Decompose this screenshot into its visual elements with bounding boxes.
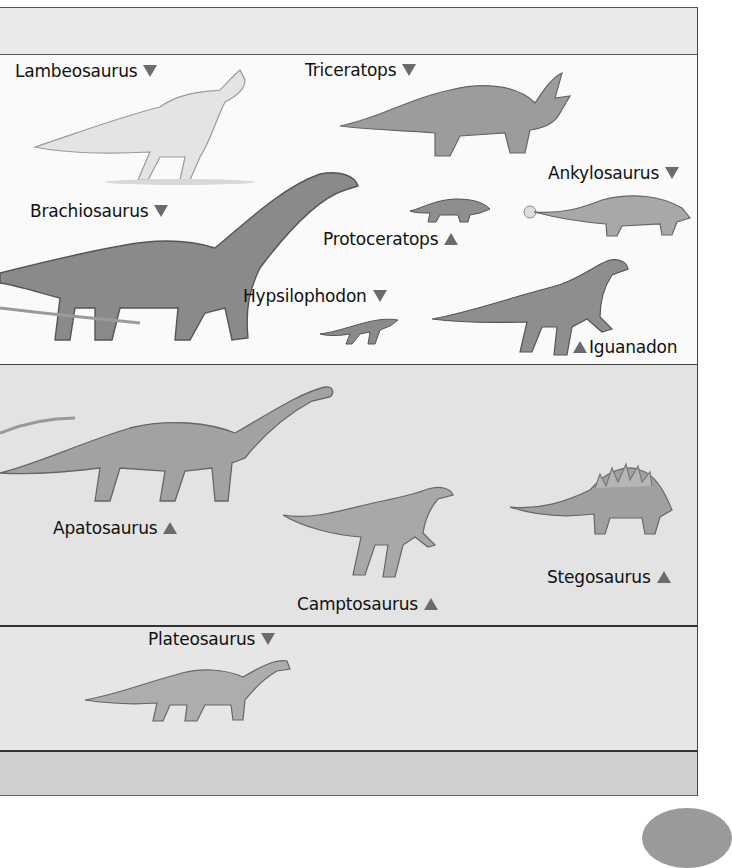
stegosaurus-illustration [510, 462, 675, 537]
label-brachiosaurus: Brachiosaurus [30, 201, 168, 221]
label-text: Lambeosaurus [15, 61, 137, 81]
triangle-down-icon [665, 167, 679, 179]
triangle-down-icon [154, 205, 168, 217]
timeline-band-4 [0, 752, 698, 796]
hypsilophodon-illustration [320, 314, 400, 346]
page-tab-circle [642, 808, 732, 868]
triangle-up-icon [657, 571, 671, 583]
triangle-down-icon [143, 65, 157, 77]
label-text: Brachiosaurus [30, 201, 148, 221]
label-triceratops: Triceratops [305, 60, 416, 80]
triangle-up-icon [424, 598, 438, 610]
triangle-down-icon [373, 290, 387, 302]
triceratops-illustration [340, 68, 575, 163]
label-protoceratops: Protoceratops [323, 229, 458, 249]
label-camptosaurus: Camptosaurus [297, 594, 438, 614]
triangle-down-icon [261, 633, 275, 645]
label-text: Iguanadon [589, 337, 677, 357]
timeline-band-top [0, 7, 698, 55]
label-hypsilophodon: Hypsilophodon [243, 286, 387, 306]
label-stegosaurus: Stegosaurus [547, 567, 671, 587]
label-lambeosaurus: Lambeosaurus [15, 61, 157, 81]
label-text: Camptosaurus [297, 594, 418, 614]
label-text: Ankylosaurus [548, 163, 659, 183]
ankylosaurus-illustration [522, 190, 692, 240]
label-text: Plateosaurus [148, 629, 255, 649]
triangle-up-icon [444, 233, 458, 245]
label-ankylosaurus: Ankylosaurus [548, 163, 679, 183]
camptosaurus-illustration [283, 485, 458, 580]
label-text: Stegosaurus [547, 567, 651, 587]
protoceratops-illustration [410, 195, 492, 223]
triangle-down-icon [402, 64, 416, 76]
plateosaurus-illustration [85, 655, 295, 725]
brachiosaurus-illustration [0, 168, 360, 348]
label-text: Protoceratops [323, 229, 438, 249]
label-text: Hypsilophodon [243, 286, 367, 306]
triangle-up-icon [573, 341, 587, 353]
label-text: Apatosaurus [53, 518, 157, 538]
label-plateosaurus: Plateosaurus [148, 629, 275, 649]
label-iguanadon: Iguanadon [573, 337, 677, 357]
triangle-up-icon [163, 522, 177, 534]
label-text: Triceratops [305, 60, 396, 80]
label-apatosaurus: Apatosaurus [53, 518, 177, 538]
